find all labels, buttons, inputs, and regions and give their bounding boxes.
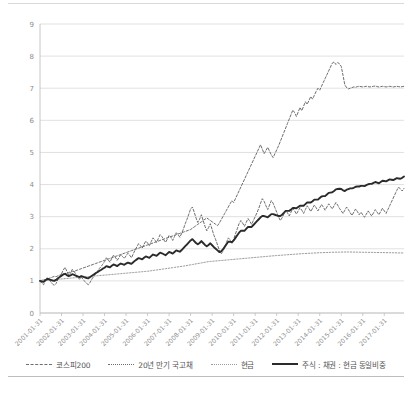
dashed-line-marker-icon xyxy=(108,361,134,368)
legend-item-cash[interactable]: 현금 xyxy=(211,359,255,370)
svg-text:4: 4 xyxy=(30,181,35,189)
dashed-line-marker-icon xyxy=(26,361,52,368)
legend-label: 현금 xyxy=(241,359,255,370)
legend-label: 주식 : 채권 : 현금 동일비중 xyxy=(302,359,386,370)
legend-label: 코스피200 xyxy=(56,359,90,370)
gridlines xyxy=(40,24,404,313)
solid-line-marker-icon xyxy=(272,361,298,368)
svg-text:1: 1 xyxy=(30,277,34,285)
svg-text:9: 9 xyxy=(30,21,34,29)
legend-item-equal-weight[interactable]: 주식 : 채권 : 현금 동일비중 xyxy=(272,359,386,370)
chart-plot-area: 0123456789 2001-01-312002-01-312003-01-3… xyxy=(0,0,412,352)
svg-text:5: 5 xyxy=(30,149,34,157)
line-chart-svg: 0123456789 2001-01-312002-01-312003-01-3… xyxy=(0,0,412,352)
legend-label: 20년 만기 국고채 xyxy=(138,359,192,370)
svg-text:0: 0 xyxy=(30,310,34,318)
svg-text:2: 2 xyxy=(30,245,34,253)
series-line xyxy=(40,252,404,281)
y-axis-tick-labels: 0123456789 xyxy=(30,21,35,318)
legend-item-government-bond[interactable]: 20년 만기 국고채 xyxy=(108,359,192,370)
svg-text:7: 7 xyxy=(30,85,34,93)
dotted-line-marker-icon xyxy=(211,361,237,368)
svg-text:6: 6 xyxy=(30,117,35,125)
series-line xyxy=(40,187,404,285)
legend-item-kospi200[interactable]: 코스피200 xyxy=(26,359,90,370)
series-line xyxy=(40,177,404,282)
svg-text:8: 8 xyxy=(30,53,34,61)
svg-text:3: 3 xyxy=(30,213,34,221)
x-axis-tick-labels: 2001-01-312002-01-312003-01-312004-01-31… xyxy=(13,317,388,347)
card-bottom-border xyxy=(8,376,404,377)
chart-card: 0123456789 2001-01-312002-01-312003-01-3… xyxy=(0,0,412,396)
x-axis-ticks xyxy=(40,313,384,316)
series-line xyxy=(40,62,404,281)
chart-legend: 코스피200 20년 만기 국고채 현금 주식 : 채권 : 현금 동일비중 xyxy=(0,355,412,373)
data-series-group xyxy=(40,62,404,285)
